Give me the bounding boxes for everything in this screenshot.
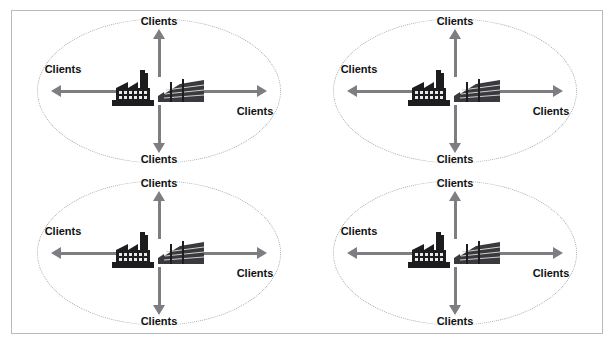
client-label-bottom: Clients bbox=[141, 315, 178, 327]
arrow-head-up-icon bbox=[449, 191, 461, 201]
arrow-head-right-icon bbox=[553, 247, 563, 259]
cluster-bottom-right: Clients Clients Clients Clients bbox=[307, 172, 603, 334]
arrow-head-left-icon bbox=[347, 85, 357, 97]
client-label-top: Clients bbox=[141, 15, 178, 27]
arrow-head-left-icon bbox=[51, 247, 61, 259]
client-label-left: Clients bbox=[341, 225, 378, 237]
arrow-head-up-icon bbox=[153, 29, 165, 39]
arrow-head-up-icon bbox=[153, 191, 165, 201]
factory-and-office-building-icon bbox=[404, 230, 506, 276]
client-label-right: Clients bbox=[533, 105, 570, 117]
cluster-top-right: Clients Clients Clients Clients bbox=[307, 10, 603, 172]
client-label-bottom: Clients bbox=[437, 153, 474, 165]
arrow-head-down-icon bbox=[153, 143, 165, 153]
client-label-top: Clients bbox=[141, 177, 178, 189]
figure-canvas: Clients Clients Clients Clients bbox=[0, 0, 614, 347]
client-label-right: Clients bbox=[237, 267, 274, 279]
cluster-bottom-left: Clients Clients Clients Clients bbox=[11, 172, 307, 334]
client-label-left: Clients bbox=[45, 63, 82, 75]
arrow-head-down-icon bbox=[449, 143, 461, 153]
arrow-head-left-icon bbox=[347, 247, 357, 259]
factory-and-office-building-icon bbox=[108, 68, 210, 114]
client-label-right: Clients bbox=[237, 105, 274, 117]
client-label-top: Clients bbox=[437, 177, 474, 189]
client-label-left: Clients bbox=[341, 63, 378, 75]
cluster-grid: Clients Clients Clients Clients bbox=[11, 10, 603, 334]
arrow-head-right-icon bbox=[257, 247, 267, 259]
arrow-head-down-icon bbox=[153, 305, 165, 315]
client-label-bottom: Clients bbox=[141, 153, 178, 165]
client-label-top: Clients bbox=[437, 15, 474, 27]
cluster-top-left: Clients Clients Clients Clients bbox=[11, 10, 307, 172]
arrow-head-right-icon bbox=[553, 85, 563, 97]
arrow-head-down-icon bbox=[449, 305, 461, 315]
arrow-head-left-icon bbox=[51, 85, 61, 97]
client-label-left: Clients bbox=[45, 225, 82, 237]
arrow-head-up-icon bbox=[449, 29, 461, 39]
factory-and-office-building-icon bbox=[404, 68, 506, 114]
arrow-head-right-icon bbox=[257, 85, 267, 97]
client-label-bottom: Clients bbox=[437, 315, 474, 327]
client-label-right: Clients bbox=[533, 267, 570, 279]
factory-and-office-building-icon bbox=[108, 230, 210, 276]
